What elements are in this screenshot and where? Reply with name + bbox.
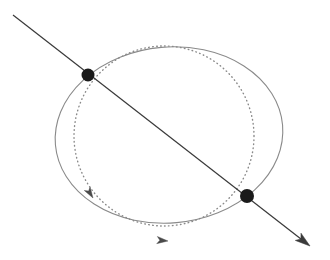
upper-left-intersection-node[interactable]: [82, 69, 95, 82]
geometry-figure: [0, 0, 330, 260]
background-plate: [0, 0, 330, 260]
diagram-canvas: [0, 0, 330, 260]
lower-right-intersection-node[interactable]: [240, 189, 254, 203]
